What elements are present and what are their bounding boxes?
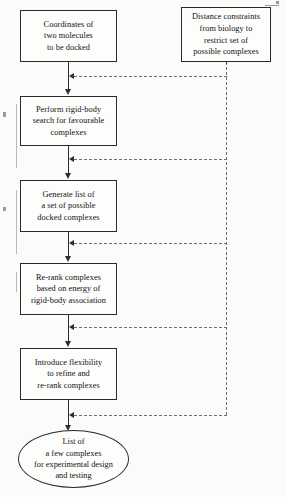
constraint-branch-2: [74, 159, 227, 160]
scan-speck: [276, 1, 279, 4]
flow-edge-2-arrowhead: [65, 173, 71, 179]
constraint-branch-3: [74, 243, 227, 244]
constraint-branch-4: [74, 327, 227, 328]
scan-speck: [3, 207, 6, 211]
node-generate-list-label: Generate list ofa set of possibledocked …: [24, 189, 113, 224]
constraints-box-stub: [226, 62, 227, 64]
node-generate-list: Generate list ofa set of possibledocked …: [20, 180, 117, 232]
flow-edge-4-arrowhead: [65, 341, 71, 347]
node-rerank-energy-label: Re-rank complexesbased on energy ofrigid…: [24, 272, 113, 307]
flow-edge-5: [68, 400, 69, 426]
node-distance-constraints-label: Distance constraintsfrom biology torestr…: [185, 11, 267, 57]
node-rigid-body-search: Perform rigid-bodysearch for favourablec…: [20, 96, 117, 146]
scan-speck: [265, 5, 279, 6]
flow-edge-3: [68, 232, 69, 258]
constraint-branch-1: [74, 76, 227, 77]
scan-edge-artifact: [16, 190, 17, 254]
constraint-branch-2-arrowhead: [69, 156, 74, 162]
node-input-coordinates: Coordinates oftwo moleculesto be docked: [20, 10, 117, 62]
flow-edge-1: [68, 62, 69, 90]
constraint-branch-3-arrowhead: [69, 240, 74, 246]
node-output-list: List ofa few complexesfor experimental d…: [18, 430, 129, 488]
node-introduce-flexibility: Introduce flexibilityto refine andre-ran…: [20, 348, 117, 400]
node-rerank-energy: Re-rank complexesbased on energy ofrigid…: [20, 263, 117, 315]
flow-edge-2: [68, 146, 69, 174]
node-output-list-label: List ofa few complexesfor experimental d…: [34, 436, 113, 482]
scan-edge-artifact: [16, 104, 17, 168]
constraint-branch-4-arrowhead: [69, 324, 74, 330]
scan-edge-artifact: [16, 272, 17, 292]
flow-edge-4: [68, 315, 69, 342]
constraint-branch-5-arrowhead: [69, 412, 74, 418]
constraint-branch-5: [74, 415, 227, 416]
constraint-branch-1-arrowhead: [69, 73, 74, 79]
constraint-bus-vertical: [226, 62, 227, 415]
flow-edge-3-arrowhead: [65, 256, 71, 262]
node-introduce-flexibility-label: Introduce flexibilityto refine andre-ran…: [24, 357, 113, 392]
flow-edge-1-arrowhead: [65, 89, 71, 95]
node-distance-constraints: Distance constraintsfrom biology torestr…: [181, 7, 271, 62]
node-rigid-body-search-label: Perform rigid-bodysearch for favourablec…: [24, 104, 113, 139]
scan-speck: [3, 112, 6, 117]
node-input-coordinates-label: Coordinates oftwo moleculesto be docked: [24, 19, 113, 54]
flowchart-canvas: Coordinates oftwo moleculesto be docked …: [0, 0, 287, 497]
